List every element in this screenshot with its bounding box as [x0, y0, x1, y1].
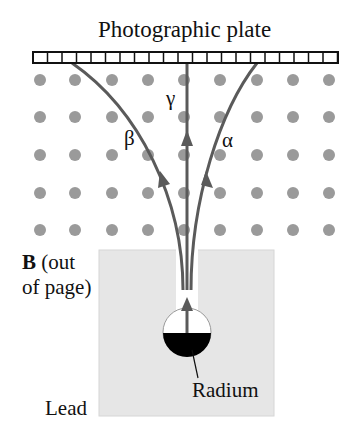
field-dot [34, 111, 46, 123]
field-dot [106, 74, 118, 86]
field-dot [106, 224, 118, 236]
field-dot [287, 149, 299, 161]
field-dot [251, 149, 263, 161]
field-symbol: B [22, 250, 36, 274]
gamma-label: γ [166, 88, 175, 109]
field-dot [323, 224, 335, 236]
field-dot [287, 187, 299, 199]
field-dot [214, 187, 226, 199]
field-dot [69, 149, 81, 161]
field-dot [142, 224, 154, 236]
lead-label: Lead [45, 398, 87, 419]
field-dot [287, 224, 299, 236]
field-dot [214, 224, 226, 236]
magnetic-field-dots [34, 74, 335, 236]
field-dot [214, 74, 226, 86]
field-dot [106, 111, 118, 123]
field-label-line2: of page) [22, 277, 91, 298]
diagram-canvas [0, 0, 356, 432]
field-dot [106, 187, 118, 199]
alpha-label: α [222, 130, 233, 151]
radium-label: Radium [192, 380, 259, 401]
plate-title: Photographic plate [98, 18, 271, 41]
field-dot [34, 224, 46, 236]
field-dot [34, 74, 46, 86]
field-dot [142, 111, 154, 123]
field-dot [287, 74, 299, 86]
field-label-line1: B (out [22, 252, 75, 273]
photographic-plate [33, 52, 338, 63]
field-dot [251, 224, 263, 236]
field-dot [142, 187, 154, 199]
field-dot [323, 187, 335, 199]
field-dot [34, 149, 46, 161]
field-dot [323, 149, 335, 161]
field-dot [34, 187, 46, 199]
field-dot [251, 74, 263, 86]
gamma-arrow-icon [181, 130, 193, 146]
field-dot [287, 111, 299, 123]
beta-arrow-icon [158, 171, 170, 188]
field-dot [323, 111, 335, 123]
field-dot [251, 187, 263, 199]
field-dot [69, 187, 81, 199]
field-dot [69, 74, 81, 86]
alpha-arrow-icon [201, 171, 213, 188]
field-dot [251, 111, 263, 123]
field-dot [69, 224, 81, 236]
beta-label: β [124, 128, 135, 149]
field-dot [323, 74, 335, 86]
field-dot [69, 111, 81, 123]
field-dot [106, 149, 118, 161]
field-dot [142, 74, 154, 86]
